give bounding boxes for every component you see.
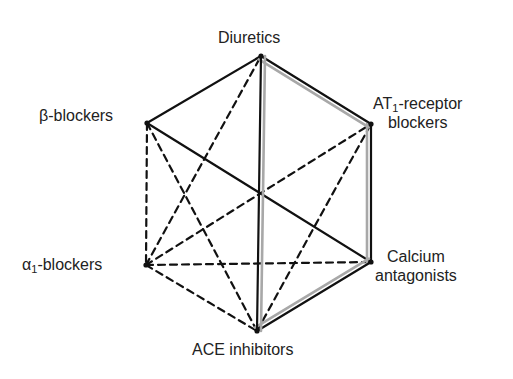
label-calcium-line2: antagonists (375, 266, 457, 285)
edge-alpha1-diuretics (146, 56, 261, 265)
label-ace-text: ACE inhibitors (192, 341, 293, 358)
label-beta-text: β-blockers (39, 107, 113, 124)
label-at1-line1: AT1-receptor (373, 94, 462, 113)
vertex-beta (144, 120, 149, 125)
edge-beta-ace (147, 123, 257, 331)
edge-calcium-ace-gray (255, 259, 369, 328)
label-ace-inhibitors: ACE inhibitors (192, 340, 293, 359)
vertex-alpha1 (143, 262, 148, 267)
label-calcium-line1: Calcium (375, 247, 457, 266)
label-alpha1-blockers: α1-blockers (22, 255, 102, 274)
vertex-diuretics (258, 53, 263, 58)
vertex-ace (254, 328, 259, 333)
label-diuretics-text: Diuretics (218, 29, 280, 46)
combination-hexagon (0, 0, 513, 379)
label-at1-receptor-blockers: AT1-receptor blockers (373, 94, 462, 132)
edge-calcium-ace (257, 262, 371, 331)
label-beta-blockers: β-blockers (39, 106, 113, 125)
vertex-calcium (368, 259, 373, 264)
label-diuretics: Diuretics (218, 28, 280, 47)
edge-diuretics-at1 (261, 56, 371, 124)
edge-diuretics-at1-gray (259, 59, 369, 127)
label-at1-line2: blockers (373, 113, 462, 132)
edge-beta-alpha1 (146, 123, 147, 265)
label-calcium-antagonists: Calcium antagonists (375, 247, 457, 285)
edge-diuretics-beta (147, 56, 261, 123)
